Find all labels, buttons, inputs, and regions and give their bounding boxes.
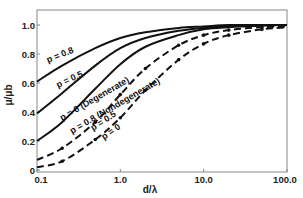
y-tick-label: 0.6 <box>22 78 35 89</box>
data-marker <box>177 58 181 62</box>
data-marker <box>60 146 64 150</box>
curve <box>37 27 287 167</box>
data-marker <box>119 116 123 120</box>
data-marker <box>93 138 97 142</box>
data-marker <box>202 33 206 37</box>
data-marker <box>144 67 148 71</box>
curves <box>37 25 287 167</box>
data-marker <box>202 42 206 46</box>
data-marker <box>227 33 231 37</box>
curve <box>37 26 287 159</box>
y-tick-label: 0.8 <box>22 49 35 60</box>
y-tick-label: 1.0 <box>22 20 35 31</box>
data-marker <box>260 28 264 32</box>
y-tick-label: 0 <box>30 165 35 176</box>
data-marker <box>177 44 181 48</box>
data-marker <box>227 28 231 32</box>
x-axis-title: d/λ <box>143 184 158 195</box>
x-tick-label: 1.0 <box>114 174 127 185</box>
data-marker <box>60 160 64 164</box>
y-tick-label: 0.2 <box>22 136 35 147</box>
x-tick-label: 0.1 <box>34 174 48 185</box>
x-tick-label: 10.0 <box>194 174 213 185</box>
chart: 0.11.010.0100.000.20.40.60.81.0 p = 0.8p… <box>0 0 303 198</box>
curve <box>37 25 287 114</box>
y-tick-label: 0.4 <box>22 107 36 118</box>
y-axis-title: μ/μb <box>3 84 14 105</box>
x-tick-label: 100.0 <box>273 174 297 185</box>
